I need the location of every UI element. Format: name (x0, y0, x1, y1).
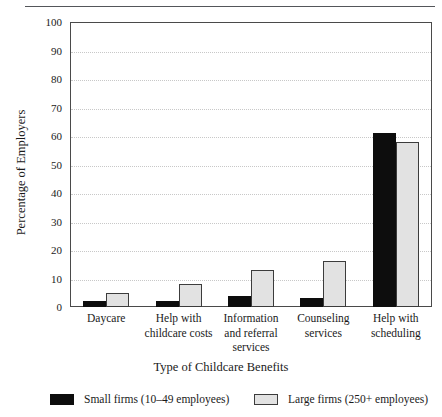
bar-groups (70, 22, 432, 307)
category-label-line: childcare costs (142, 326, 214, 341)
category-label-line: services (287, 326, 359, 341)
y-axis-tick-40: 40 (51, 188, 62, 199)
category-label-line: Daycare (70, 311, 142, 326)
category-label-2: Informationand referralservices (215, 311, 287, 355)
category-label-line: services (215, 340, 287, 355)
legend-swatch-black (50, 394, 74, 405)
y-axis-tick-0: 0 (57, 302, 63, 313)
bar-large-firms-4 (396, 142, 419, 307)
bar-large-firms-3 (323, 261, 346, 307)
category-label-line: Help with (142, 311, 214, 326)
y-axis-tick-30: 30 (51, 216, 62, 227)
bar-small-firms-4 (373, 133, 396, 307)
y-axis-tick-60: 60 (51, 131, 62, 142)
y-axis-tick-90: 90 (51, 45, 62, 56)
y-axis-tick-70: 70 (51, 102, 62, 113)
legend-swatch-grey (254, 394, 278, 405)
y-axis-tick-labels: 1009080706050403020100 (0, 0, 70, 330)
y-axis-tick-50: 50 (51, 159, 62, 170)
bar-large-firms-0 (106, 293, 129, 307)
bar-small-firms-3 (300, 298, 323, 307)
category-label-line: Help with (360, 311, 432, 326)
y-axis-tick-10: 10 (51, 273, 62, 284)
y-axis-tick-80: 80 (51, 74, 62, 85)
legend-label: Small firms (10–49 employees) (84, 393, 229, 405)
bar-group-0 (83, 22, 129, 307)
y-axis-tick-20: 20 (51, 245, 62, 256)
legend-label: Large firms (250+ employees) (288, 393, 428, 405)
bar-small-firms-2 (228, 296, 251, 307)
bar-group-4 (373, 22, 419, 307)
category-label-1: Help withchildcare costs (142, 311, 214, 340)
category-label-line: Information (215, 311, 287, 326)
bar-chart-figure: Percentage of Employers 1009080706050403… (0, 0, 442, 417)
top-divider-rule (25, 6, 435, 7)
category-label-line: scheduling (360, 326, 432, 341)
bar-large-firms-1 (179, 284, 202, 307)
chart-legend: Small firms (10–49 employees)Large firms… (0, 393, 442, 415)
category-label-3: Counselingservices (287, 311, 359, 340)
category-label-line: and referral (215, 326, 287, 341)
category-label-line: Counseling (287, 311, 359, 326)
y-axis-tick-100: 100 (46, 17, 63, 28)
bar-small-firms-1 (156, 301, 179, 307)
bar-small-firms-0 (83, 301, 106, 307)
bar-group-1 (156, 22, 202, 307)
bar-group-2 (228, 22, 274, 307)
category-label-0: Daycare (70, 311, 142, 326)
category-label-4: Help withscheduling (360, 311, 432, 340)
legend-item-large-firms: Large firms (250+ employees) (254, 393, 428, 405)
x-axis-category-labels: DaycareHelp withchildcare costsInformati… (70, 311, 432, 357)
bar-large-firms-2 (251, 270, 274, 307)
x-axis-title: Type of Childcare Benefits (0, 360, 442, 375)
bar-group-3 (300, 22, 346, 307)
legend-item-small-firms: Small firms (10–49 employees) (50, 393, 229, 405)
